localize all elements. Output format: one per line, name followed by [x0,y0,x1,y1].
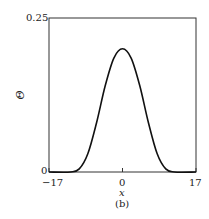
figure-caption: (b) [115,199,129,209]
theta-curve [49,49,196,172]
x-tick-label-left: −17 [42,178,63,188]
axes-frame [49,18,196,172]
x-tick-label-right: 17 [189,178,202,188]
x-axis-label: x [119,188,125,198]
y-tick-label-bottom: 0 [41,166,47,176]
plot-area [0,0,209,219]
y-axis-label: Θ [16,90,26,99]
y-tick-label-top: 0.25 [26,13,48,23]
